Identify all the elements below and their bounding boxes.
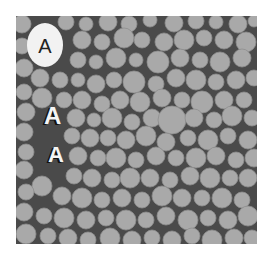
particle xyxy=(90,150,106,166)
particle xyxy=(117,131,135,149)
particle xyxy=(138,212,154,228)
particle xyxy=(18,144,34,160)
particle xyxy=(87,75,105,93)
particle xyxy=(184,228,200,244)
particle xyxy=(196,30,212,46)
particle xyxy=(80,232,96,244)
particle xyxy=(233,49,251,67)
particle xyxy=(32,176,52,196)
particle xyxy=(157,207,175,225)
label-a-2: AA xyxy=(42,102,61,130)
particle xyxy=(73,91,91,109)
particle xyxy=(171,49,189,67)
particle xyxy=(54,208,74,228)
particle xyxy=(144,230,160,244)
particle xyxy=(141,169,159,187)
particle xyxy=(147,147,165,165)
particle xyxy=(212,188,232,208)
particle xyxy=(236,92,252,108)
particle xyxy=(58,16,74,30)
particle xyxy=(52,72,68,88)
particle xyxy=(73,31,91,49)
particle xyxy=(180,130,196,146)
particle xyxy=(239,169,257,187)
particle xyxy=(248,16,257,27)
particle xyxy=(136,126,156,146)
particle xyxy=(16,161,33,179)
particle xyxy=(99,16,117,31)
particle xyxy=(236,32,256,52)
particle xyxy=(66,168,82,184)
particle xyxy=(79,17,93,31)
particle xyxy=(222,170,238,186)
particle xyxy=(124,114,140,130)
particle xyxy=(188,16,204,29)
particle xyxy=(158,106,186,134)
label-text: A xyxy=(44,102,61,129)
particle xyxy=(130,92,150,112)
particle xyxy=(94,192,110,208)
particle xyxy=(94,34,110,50)
label-a-1: A xyxy=(27,23,63,67)
particle xyxy=(111,91,129,109)
particle xyxy=(186,148,206,168)
particle xyxy=(116,210,136,230)
particle xyxy=(200,210,216,226)
particle xyxy=(134,32,150,48)
particle xyxy=(40,228,56,244)
particle xyxy=(70,52,86,68)
particle xyxy=(106,148,126,168)
particle xyxy=(210,52,230,72)
particle xyxy=(234,192,250,208)
particle xyxy=(181,167,199,185)
particle xyxy=(206,112,222,128)
particle xyxy=(16,59,33,77)
particle xyxy=(100,228,120,244)
particle xyxy=(77,211,95,229)
label-text: A xyxy=(48,142,64,167)
particle xyxy=(239,131,257,149)
particle xyxy=(69,147,87,165)
particle xyxy=(64,128,80,144)
particle xyxy=(17,103,35,121)
particle xyxy=(208,74,224,90)
label-a-3: AA xyxy=(46,142,64,168)
particle xyxy=(128,152,144,168)
particle xyxy=(102,108,122,128)
particle xyxy=(229,16,247,33)
particle xyxy=(178,210,198,230)
particle xyxy=(59,229,77,244)
particle xyxy=(194,190,210,206)
particle xyxy=(165,16,183,32)
particle xyxy=(123,71,145,93)
particle xyxy=(185,109,203,127)
particle xyxy=(174,92,190,108)
particle xyxy=(228,152,244,168)
particle xyxy=(36,208,52,224)
particle xyxy=(106,48,126,68)
particle xyxy=(186,70,206,90)
particle xyxy=(120,168,140,188)
particle xyxy=(16,84,32,100)
label-text: A xyxy=(38,35,52,57)
particle xyxy=(89,55,103,69)
particle xyxy=(134,192,150,208)
particle xyxy=(67,109,85,127)
particle xyxy=(72,188,92,208)
particle xyxy=(143,16,157,27)
particle xyxy=(155,33,173,51)
particle xyxy=(174,30,194,50)
particle xyxy=(238,206,257,226)
particle xyxy=(147,51,169,73)
particle xyxy=(83,169,101,187)
particle xyxy=(225,229,243,244)
particle xyxy=(98,210,114,226)
particle xyxy=(16,224,36,244)
particle xyxy=(71,73,85,87)
particle xyxy=(220,128,236,144)
particle xyxy=(16,16,31,33)
particle xyxy=(215,31,233,49)
particle xyxy=(53,187,71,205)
particle xyxy=(173,189,191,207)
particle xyxy=(100,130,116,146)
